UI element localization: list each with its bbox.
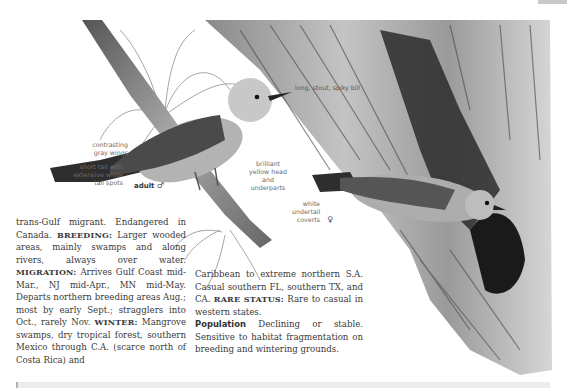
label-bill: long, stout, spiky bill: [295, 84, 360, 92]
label-wings: contrasting gray wings: [86, 141, 128, 157]
rare-status-heading: RARE STATUS:: [214, 294, 284, 304]
label-adult-male: adult ♂: [134, 182, 164, 190]
population-paragraph: Population Declining or stable. Sensitiv…: [195, 318, 363, 356]
label-undertail: white undertail coverts: [292, 200, 320, 224]
bottom-rule-mark: [16, 382, 18, 388]
species-account-text-1: trans-Gulf migrant. Endangered in Canada…: [16, 216, 186, 366]
adult-label-text: adult: [134, 182, 154, 190]
female-symbol-icon: ♀: [327, 216, 333, 224]
migration-heading: MIGRATION:: [16, 267, 77, 277]
winter-heading: WINTER:: [95, 317, 138, 327]
bottom-rule: [16, 382, 550, 388]
male-symbol-icon: ♂: [157, 181, 164, 190]
text-column-1: trans-Gulf migrant. Endangered in Canada…: [16, 216, 186, 366]
text-column-2: Caribbean to extreme northern S.A. Casua…: [195, 268, 363, 356]
population-heading: Population: [195, 319, 246, 329]
label-tail: short tail with extensive white tail spo…: [70, 163, 123, 187]
label-head: brilliant yellow head and underparts: [246, 160, 290, 192]
breeding-heading: BREEDING:: [57, 230, 112, 240]
species-account-text-2: Caribbean to extreme northern S.A. Casua…: [195, 268, 363, 318]
